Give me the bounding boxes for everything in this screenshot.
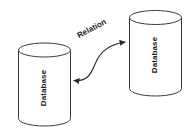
database-right-label: Database	[151, 33, 159, 77]
database-left-label: Database	[40, 66, 48, 110]
cylinder-top-ellipse-left	[19, 43, 71, 57]
diagram-canvas: Database Database Relation	[0, 0, 196, 134]
relation-arrow[interactable]	[74, 42, 125, 81]
cylinder-top-ellipse-right	[130, 11, 182, 25]
relation-arrow-path	[74, 42, 125, 81]
